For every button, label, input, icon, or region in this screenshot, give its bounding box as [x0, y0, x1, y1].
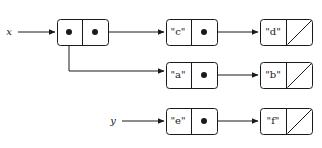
pointer-dot-icon — [201, 118, 207, 124]
cons-cell: "c" — [167, 20, 218, 46]
cons-cell: "a" — [167, 63, 218, 89]
cons-cell: "d" — [261, 20, 313, 46]
cell-value-label: "d" — [265, 26, 281, 37]
pointer-dot-icon — [92, 29, 98, 35]
variable-label: x — [6, 26, 12, 37]
cons-cell — [58, 20, 109, 46]
cons-cell: "b" — [261, 63, 313, 89]
variable-label: y — [109, 115, 116, 126]
cons-cells-layer: "c""d""a""b""e""f" — [58, 20, 313, 135]
pointer-links-layer — [18, 32, 258, 121]
cell-value-label: "c" — [171, 26, 186, 37]
cell-value-label: "e" — [170, 115, 185, 126]
cell-value-label: "f" — [267, 115, 280, 126]
pointer-dot-icon — [201, 29, 207, 35]
cell-value-label: "a" — [170, 69, 185, 80]
pointer-dot-icon — [201, 72, 207, 78]
cell-value-label: "b" — [265, 69, 281, 80]
box-and-pointer-diagram: "c""d""a""b""e""f" xy — [0, 0, 322, 148]
pointer-dot-icon — [66, 29, 72, 35]
cons-cell: "e" — [167, 109, 218, 135]
diagram-canvas: "c""d""a""b""e""f" xy — [0, 0, 322, 148]
cons-cell: "f" — [261, 109, 313, 135]
